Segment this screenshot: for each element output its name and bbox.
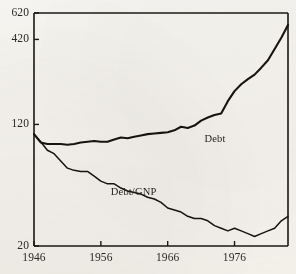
x-axis-tick-label-1966: 1966 [148, 251, 188, 263]
y-axis-tick-label-120: 120 [0, 117, 29, 129]
y-axis-tick-label-620: 620 [0, 6, 29, 18]
x-axis-tick-label-1946: 1946 [14, 251, 54, 263]
series-annotation-debt-gnp: Debt/GNP [111, 186, 157, 197]
y-axis-tick-label-420: 420 [0, 32, 29, 44]
series-line-debt [34, 25, 288, 145]
x-axis-tick-label-1956: 1956 [81, 251, 121, 263]
chart-plot-area [0, 0, 296, 274]
chart-figure: 620 420 120 20 1946 1956 1966 1976 Debt … [0, 0, 296, 274]
series-annotation-debt: Debt [204, 133, 225, 144]
x-axis-tick-label-1976: 1976 [215, 251, 255, 263]
series-line-debt-gnp [34, 134, 288, 236]
y-axis-tick-label-20: 20 [0, 239, 29, 251]
